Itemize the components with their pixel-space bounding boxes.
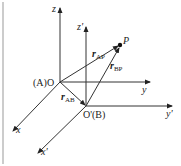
r-bp-label: rBP xyxy=(110,60,123,73)
coordinate-frames-diagram: z z' y y' x x' (A)O O'(B) P rAP rBP rAB xyxy=(0,0,181,166)
y-prime-label: y' xyxy=(165,108,173,119)
diagram-canvas: z z' y y' x x' (A)O O'(B) P rAP rBP rAB xyxy=(0,0,181,166)
point-p xyxy=(118,43,122,47)
z-prime-label: z' xyxy=(76,21,84,32)
point-p-label: P xyxy=(122,35,129,46)
z-label: z xyxy=(51,3,56,14)
frame-b xyxy=(38,27,172,153)
r-ab-label: rAB xyxy=(61,91,75,104)
origin-a-label: (A)O xyxy=(33,77,54,89)
x-label: x xyxy=(15,124,21,135)
r-ap-label: rAP xyxy=(92,48,105,61)
x-prime-label: x' xyxy=(40,146,48,157)
origin-b-label: O'(B) xyxy=(83,109,105,121)
y-label: y xyxy=(141,84,147,95)
